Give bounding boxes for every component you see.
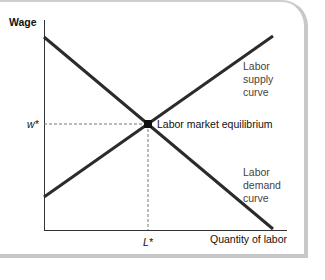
- w-star-label: w*: [27, 118, 39, 130]
- x-axis-label: Quantity of labor: [210, 233, 287, 245]
- y-axis-label: Wage: [9, 16, 37, 28]
- demand-curve: [44, 37, 273, 229]
- supply-curve-label: Laborsupplycurve: [243, 60, 273, 99]
- equilibrium-label: Labor market equilibrium: [157, 118, 273, 130]
- l-star-label: L*: [143, 236, 153, 248]
- demand-curve-label: Labordemandcurve: [243, 166, 281, 205]
- equilibrium-point: [144, 120, 152, 128]
- supply-curve: [44, 36, 273, 197]
